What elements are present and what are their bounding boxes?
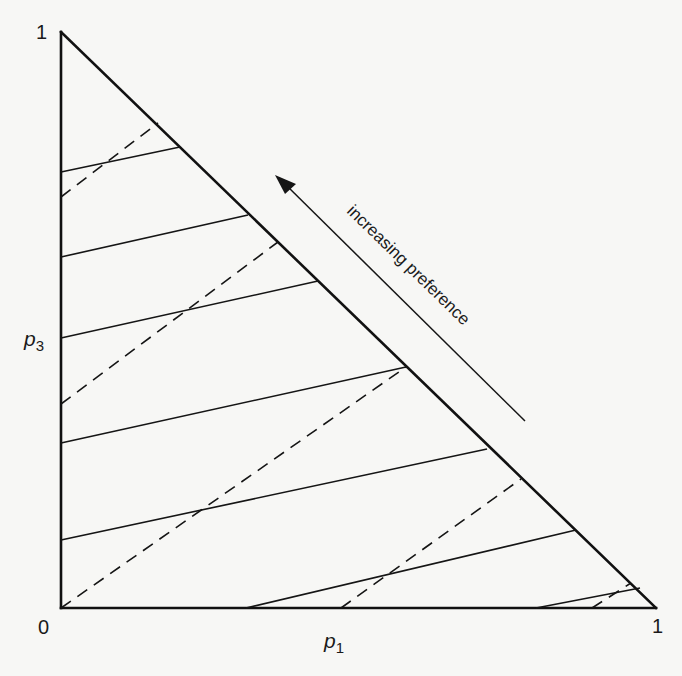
solid-line-6 [246, 530, 576, 608]
dashed-line-4 [341, 479, 521, 608]
solid-line-1 [61, 147, 180, 172]
x-axis-symbol: p [323, 629, 336, 652]
probability-triangle-diagram: increasing preference 1 0 1 p3 p1 [0, 0, 682, 676]
x-axis-subscript: 1 [336, 639, 344, 656]
solid-line-2 [61, 215, 248, 257]
y-axis-subscript: 3 [36, 337, 44, 354]
y-axis-symbol: p [23, 327, 36, 350]
origin-label: 0 [38, 616, 49, 638]
solid-line-3 [61, 281, 318, 338]
solid-line-5 [61, 449, 487, 540]
dashed-line-2 [61, 242, 278, 404]
preference-arrow: increasing preference [275, 175, 525, 421]
solid-line-7 [536, 588, 640, 608]
dashed-line-1 [61, 123, 158, 197]
dashed-line-3 [61, 367, 406, 608]
top-vertex-label: 1 [36, 21, 47, 43]
dashed-indifference-lines [61, 123, 631, 608]
x-axis-label: p1 [323, 629, 344, 656]
solid-line-4 [61, 367, 406, 443]
y-axis-label: p3 [23, 327, 44, 354]
arrow-label: increasing preference [343, 201, 473, 329]
right-vertex-label: 1 [652, 615, 663, 637]
